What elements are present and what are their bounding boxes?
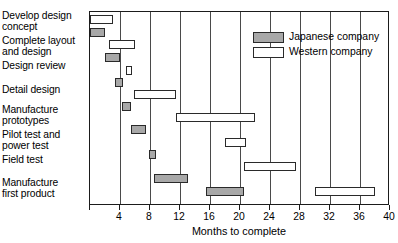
axis-tick-label: 16 [197, 210, 221, 223]
axis-tick-label: 20 [227, 210, 251, 223]
gantt-bar-western [176, 113, 255, 122]
task-label-line: Pilot test and [2, 129, 88, 140]
task-label-line: Manufacture [2, 104, 88, 115]
gantt-bar-western [126, 66, 132, 75]
legend-item-western: Western company [253, 45, 385, 60]
task-label-line: Design review [2, 60, 88, 71]
gantt-bar-japanese [206, 187, 244, 196]
gantt-bar-japanese [105, 53, 120, 62]
task-label: Pilot test andpower test [2, 129, 88, 152]
gridline [240, 12, 241, 204]
gantt-bar-western [90, 15, 113, 24]
axis-tick-label: 12 [167, 210, 191, 223]
axis-tick-label: 32 [317, 210, 341, 223]
gantt-bar-japanese [122, 102, 131, 111]
task-label: Field test [2, 154, 88, 165]
task-label-line: Complete layout [2, 35, 88, 46]
gantt-bar-western [315, 187, 375, 196]
legend-label-japanese: Japanese company [289, 30, 379, 44]
axis-tick-label: 40 [377, 210, 398, 223]
task-label-line: Field test [2, 154, 88, 165]
legend: Japanese company Western company [253, 30, 385, 60]
gridline [150, 12, 151, 204]
task-label-line: concept [2, 21, 88, 32]
gantt-bar-japanese [115, 78, 123, 87]
gantt-bar-japanese [90, 28, 105, 37]
task-label-line: first product [2, 188, 88, 199]
axis-tick-label: 8 [137, 210, 161, 223]
task-label-line: prototypes [2, 115, 88, 126]
axis-tick-label: 36 [347, 210, 371, 223]
gantt-bar-japanese [154, 174, 188, 183]
gridline [210, 12, 211, 204]
x-axis-tick-labels: 481216202428323640 [0, 210, 398, 224]
x-axis-title: Months to complete [89, 225, 389, 237]
task-label-column: Develop designconceptComplete layoutand … [2, 10, 88, 206]
task-label: Develop designconcept [2, 10, 88, 33]
task-label-line: power test [2, 140, 88, 151]
task-label-line: and design [2, 46, 88, 57]
gantt-bar-western [244, 162, 297, 171]
axis-tick-label: 28 [287, 210, 311, 223]
axis-tick-label: 24 [257, 210, 281, 223]
gantt-chart: Develop designconceptComplete layoutand … [0, 0, 398, 243]
legend-swatch-western [253, 47, 284, 58]
task-label-line: Detail design [2, 84, 88, 95]
legend-label-western: Western company [289, 45, 373, 59]
plot-area: Japanese company Western company [89, 11, 389, 205]
task-label: Detail design [2, 84, 88, 95]
legend-item-japanese: Japanese company [253, 30, 385, 45]
task-label: Manufacturefirst product [2, 177, 88, 200]
task-label-line: Develop design [2, 10, 88, 21]
gantt-bar-japanese [131, 125, 146, 134]
task-label: Complete layoutand design [2, 35, 88, 58]
task-label: Manufactureprototypes [2, 104, 88, 127]
gantt-bar-western [134, 90, 177, 99]
gantt-bar-western [225, 138, 246, 147]
gantt-bar-western [109, 40, 135, 49]
legend-swatch-japanese [253, 32, 284, 43]
task-label-line: Manufacture [2, 177, 88, 188]
task-label: Design review [2, 60, 88, 71]
axis-tick-label: 4 [107, 210, 131, 223]
gantt-bar-japanese [149, 150, 157, 159]
